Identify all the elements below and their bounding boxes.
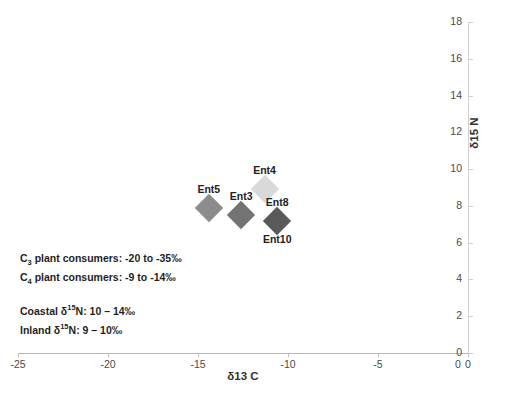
y-tick [468, 22, 473, 23]
x-tick-label: 0 [443, 358, 493, 370]
data-point-label: Ent4 [235, 164, 295, 176]
x-tick [18, 353, 19, 357]
y-tick [468, 279, 473, 280]
x-tick-label: -5 [353, 358, 403, 370]
y-tick [468, 316, 473, 317]
x-axis-title: δ13 C [0, 370, 486, 382]
y-tick [468, 353, 473, 354]
y-tick [468, 243, 473, 244]
scatter-chart: -25-20-15-10-50 024681012141618 0 δ13 C … [0, 0, 505, 394]
y-tick [468, 206, 473, 207]
y-axis-line [468, 22, 469, 353]
annotation-spacer [20, 289, 182, 300]
data-point-label: Ent10 [247, 233, 307, 245]
annotation-inland-n: Inland δ15N: 9 – 10‰ [20, 319, 182, 338]
annotation-c4-consumers: C4 plant consumers: -9 to -14‰ [20, 270, 182, 289]
x-tick-label: -20 [83, 358, 133, 370]
annotation-block: C3 plant consumers: -20 to -35‰C4 plant … [20, 251, 182, 337]
x-tick [288, 353, 289, 357]
x-tick [108, 353, 109, 357]
data-point-label: Ent8 [247, 196, 307, 208]
x-axis-line [18, 353, 468, 354]
y-axis-title: δ15 N [468, 93, 480, 173]
annotation-c3-consumers: C3 plant consumers: -20 to -35‰ [20, 251, 182, 270]
x-tick [378, 353, 379, 357]
y-tick [468, 59, 473, 60]
annotation-coastal-n: Coastal δ15N: 10 – 14‰ [20, 300, 182, 319]
x-tick-label: -10 [263, 358, 313, 370]
x-tick-label: -25 [0, 358, 43, 370]
x-tick-label: -15 [173, 358, 223, 370]
x-tick [198, 353, 199, 357]
origin-corner-label: 0 [455, 358, 461, 370]
